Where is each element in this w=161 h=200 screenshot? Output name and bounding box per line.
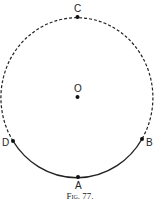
label-c: C [74, 3, 81, 14]
circle-diagram: C O D B A Fig. 77. [0, 0, 161, 200]
label-d: D [2, 137, 9, 148]
solid-arc [13, 139, 142, 178]
dashed-arc [1, 18, 153, 141]
point-c [76, 15, 80, 19]
point-o [76, 95, 80, 99]
point-a [76, 175, 80, 179]
label-b: B [146, 137, 153, 148]
figure-caption: Fig. 77. [66, 191, 93, 200]
label-a: A [75, 180, 82, 191]
label-o: O [74, 83, 82, 94]
point-b [140, 137, 144, 141]
point-d [11, 139, 15, 143]
